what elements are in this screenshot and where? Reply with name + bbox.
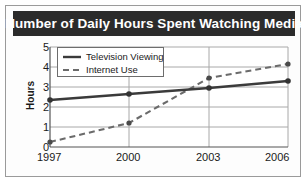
x-tick-label: 2003 xyxy=(196,151,220,163)
chart-figure: Number of Daily Hours Spent Watching Med… xyxy=(0,0,306,183)
x-tick-label: 1997 xyxy=(37,151,61,163)
chart-title: Number of Daily Hours Spent Watching Med… xyxy=(5,16,303,31)
chart-plot-area: Hours 5 4 3 2 1 0 xyxy=(13,38,295,172)
x-axis-tick-labels: 1997 2000 2003 2006 xyxy=(13,38,295,172)
x-tick-label: 2006 xyxy=(265,151,289,163)
chart-title-bar: Number of Daily Hours Spent Watching Med… xyxy=(13,11,295,36)
x-tick-label: 2000 xyxy=(116,151,140,163)
